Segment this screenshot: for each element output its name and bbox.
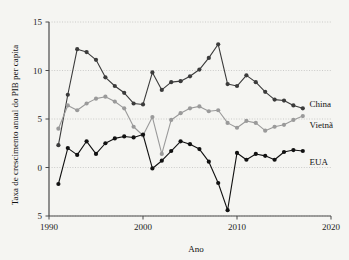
data-point-marker — [273, 158, 277, 162]
data-point-marker — [113, 99, 117, 103]
data-point-marker — [197, 104, 201, 108]
data-point-marker — [75, 108, 79, 112]
data-point-marker — [122, 91, 126, 95]
data-point-marker — [56, 143, 60, 147]
y-axis-title: Taxa de crescimento anual do PIB per cap… — [10, 45, 20, 206]
data-point-marker — [103, 141, 107, 145]
data-point-marker — [301, 149, 305, 153]
data-point-marker — [188, 74, 192, 78]
data-point-marker — [216, 42, 220, 46]
data-point-marker — [273, 98, 277, 102]
data-point-marker — [85, 101, 89, 105]
gdp-growth-line-chart: 1510505 1990200020102020 ChinaVietnãEUA … — [0, 0, 349, 260]
x-tick-label: 2010 — [228, 222, 247, 232]
data-point-marker — [235, 84, 239, 88]
data-point-marker — [122, 106, 126, 110]
data-point-marker — [150, 166, 154, 170]
data-point-marker — [179, 79, 183, 83]
data-point-marker — [244, 158, 248, 162]
data-point-marker — [85, 50, 89, 54]
data-point-marker — [226, 208, 230, 212]
data-point-marker — [244, 73, 248, 77]
data-point-marker — [273, 125, 277, 129]
data-point-marker — [263, 129, 267, 133]
figure-background — [0, 0, 349, 260]
data-point-marker — [113, 136, 117, 140]
data-point-marker — [291, 103, 295, 107]
data-point-marker — [103, 95, 107, 99]
data-point-marker — [263, 90, 267, 94]
data-point-marker — [207, 56, 211, 60]
data-point-marker — [56, 182, 60, 186]
data-point-marker — [226, 82, 230, 86]
data-point-marker — [263, 154, 267, 158]
data-point-marker — [254, 152, 258, 156]
data-point-marker — [226, 121, 230, 125]
data-point-marker — [216, 108, 220, 112]
series-label-china: China — [310, 99, 332, 109]
data-point-marker — [160, 159, 164, 163]
data-point-marker — [75, 47, 79, 51]
data-point-marker — [207, 109, 211, 113]
y-tick-label: 5 — [38, 211, 43, 221]
data-point-marker — [66, 146, 70, 150]
data-point-marker — [301, 114, 305, 118]
y-tick-label: 15 — [33, 17, 43, 27]
data-point-marker — [169, 118, 173, 122]
data-point-marker — [169, 149, 173, 153]
data-point-marker — [188, 106, 192, 110]
data-point-marker — [197, 147, 201, 151]
data-point-marker — [103, 75, 107, 79]
x-tick-label: 2000 — [134, 222, 153, 232]
data-point-marker — [94, 97, 98, 101]
data-point-marker — [207, 160, 211, 164]
data-point-marker — [282, 98, 286, 102]
data-point-marker — [56, 127, 60, 131]
data-point-marker — [301, 106, 305, 110]
data-point-marker — [254, 80, 258, 84]
data-point-marker — [75, 153, 79, 157]
data-point-marker — [282, 123, 286, 127]
data-point-marker — [132, 135, 136, 139]
data-point-marker — [160, 152, 164, 156]
data-point-marker — [216, 181, 220, 185]
data-point-marker — [235, 151, 239, 155]
data-point-marker — [141, 102, 145, 106]
data-point-marker — [179, 111, 183, 115]
data-point-marker — [66, 93, 70, 97]
data-point-marker — [291, 118, 295, 122]
data-point-marker — [254, 121, 258, 125]
data-point-marker — [85, 139, 89, 143]
series-label-vietn: Vietnã — [310, 120, 333, 130]
y-tick-label: 0 — [38, 163, 43, 173]
data-point-marker — [160, 88, 164, 92]
data-point-marker — [291, 148, 295, 152]
data-point-marker — [141, 132, 145, 136]
data-point-marker — [132, 101, 136, 105]
data-point-marker — [197, 67, 201, 71]
y-tick-label: 5 — [38, 114, 43, 124]
series-label-eua: EUA — [310, 157, 329, 167]
data-point-marker — [179, 139, 183, 143]
data-point-marker — [94, 58, 98, 62]
x-tick-label: 1990 — [40, 222, 59, 232]
data-point-marker — [235, 126, 239, 130]
data-point-marker — [122, 134, 126, 138]
x-axis-title: Ano — [188, 244, 204, 254]
data-point-marker — [169, 80, 173, 84]
data-point-marker — [244, 119, 248, 123]
x-tick-label: 2020 — [322, 222, 341, 232]
y-tick-label: 10 — [33, 66, 43, 76]
data-point-marker — [66, 103, 70, 107]
data-point-marker — [188, 142, 192, 146]
data-point-marker — [94, 152, 98, 156]
chart-figure: 1510505 1990200020102020 ChinaVietnãEUA … — [0, 0, 349, 260]
data-point-marker — [150, 115, 154, 119]
data-point-marker — [150, 70, 154, 74]
data-point-marker — [282, 150, 286, 154]
data-point-marker — [132, 125, 136, 129]
data-point-marker — [113, 84, 117, 88]
